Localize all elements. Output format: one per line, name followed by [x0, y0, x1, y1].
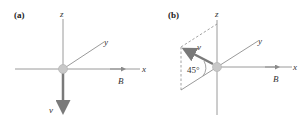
diagram-canvas: (a) z x y B⃗ v⃗ (b) z x y 45°: [0, 0, 302, 129]
angle-label: 45°: [187, 65, 200, 75]
velocity-label: v⃗: [197, 42, 208, 52]
angle-arc: [203, 61, 206, 76]
panel-a: (a) z x y B⃗ v⃗: [14, 9, 146, 115]
velocity-vector: [186, 50, 213, 64]
b-field-label: B⃗: [273, 74, 286, 84]
particle: [59, 65, 68, 74]
panel-b: (b) z x y 45° B⃗ v⃗: [168, 9, 297, 115]
b-field-label: B⃗: [118, 76, 131, 86]
x-axis-label: x: [292, 62, 297, 72]
velocity-label: v⃗: [49, 105, 60, 115]
z-axis-label: z: [59, 9, 64, 19]
y-axis: [63, 42, 104, 69]
y-axis-label: y: [257, 36, 262, 46]
y-axis-label: y: [103, 37, 108, 47]
z-axis-label: z: [214, 9, 219, 19]
x-axis-label: x: [141, 64, 146, 74]
particle: [213, 63, 222, 72]
panel-b-label: (b): [168, 10, 179, 20]
panel-a-label: (a): [14, 10, 25, 20]
